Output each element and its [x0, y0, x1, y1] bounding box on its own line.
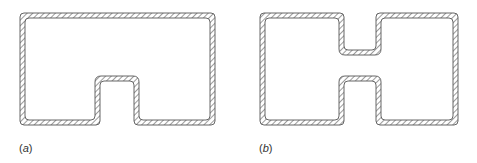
panel-b-label: (b): [259, 142, 272, 154]
profile-a: [20, 13, 215, 125]
panel-a-label: (a): [19, 142, 32, 154]
profile-b: [260, 13, 458, 125]
diagram-canvas: [0, 0, 477, 163]
